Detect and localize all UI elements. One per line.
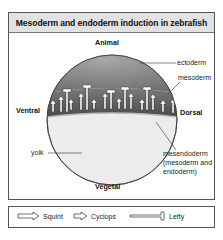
legend-label-cyclops: Cyclops (91, 213, 116, 220)
mesoderm-leader (168, 82, 180, 94)
legend-item-lefty: Lefty (129, 211, 184, 221)
mesendoderm-label-1: mesendoderm (163, 150, 208, 157)
legend-label-lefty: Lefty (169, 213, 184, 220)
mesendoderm-label-2: (mesoderm and (163, 159, 212, 166)
short-arrow-icon (73, 211, 89, 221)
legend-label-squint: Squint (43, 213, 63, 220)
legend-item-cyclops: Cyclops (73, 211, 116, 221)
yolk-label: yolk (31, 149, 43, 156)
legend: Squint Cyclops Lefty (8, 206, 215, 228)
embryo-illustration (0, 0, 223, 240)
ectoderm-region (40, 50, 184, 94)
ventral-label: Ventral (16, 106, 40, 115)
legend-item-squint: Squint (17, 211, 63, 221)
animal-label: Animal (95, 38, 119, 47)
ectoderm-label: ectoderm (177, 59, 206, 66)
long-arrow-icon (17, 211, 41, 221)
vegetal-label: Vegetal (95, 182, 120, 191)
mesoderm-label: mesoderm (178, 74, 211, 81)
inhibitor-bar-icon (129, 211, 167, 221)
mesendoderm-label-3: endoderm) (163, 168, 197, 175)
dorsal-label: Dorsal (180, 108, 202, 117)
